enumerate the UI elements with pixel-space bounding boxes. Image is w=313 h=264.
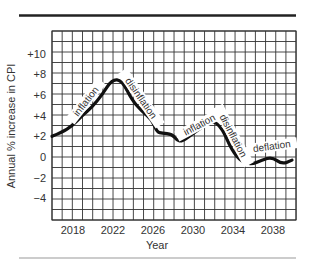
cpi-chart: +10+8+6+4+20−2−4 20182022202620302034203… [0,0,313,264]
x-tick-label: 2022 [101,224,125,236]
y-tick-label: +4 [33,110,46,122]
y-axis-label: Annual % increase in CPI [5,64,17,189]
x-axis-ticks: 201820222026203020342038 [61,224,285,236]
y-axis-ticks: +10+8+6+4+20−2−4 [27,48,46,205]
x-tick-label: 2018 [61,224,85,236]
x-tick-label: 2026 [141,224,165,236]
y-tick-label: +8 [33,68,46,80]
y-tick-label: 0 [40,151,46,163]
x-tick-label: 2030 [181,224,205,236]
grid [52,31,296,220]
y-tick-label: +6 [33,89,46,101]
y-tick-label: −2 [33,172,46,184]
x-axis-label: Year [146,239,169,251]
y-tick-label: −4 [33,192,46,204]
y-tick-label: +2 [33,130,46,142]
x-tick-label: 2038 [261,224,285,236]
y-tick-label: +10 [27,48,46,60]
x-tick-label: 2034 [221,224,245,236]
